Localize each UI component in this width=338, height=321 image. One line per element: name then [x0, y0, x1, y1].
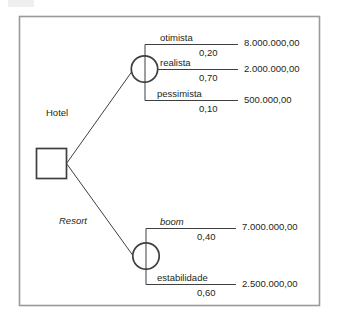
decision-tree-figure: Hotel Resort otimista 0,20 8.000.000,00 … [0, 0, 338, 321]
branch-line-resort [67, 164, 135, 258]
branch-label-otimista: otimista [160, 33, 193, 43]
branch-line-hotel [67, 70, 134, 164]
branch-label-realista: realista [160, 58, 191, 68]
branch-payoff-otimista: 8.000.000,00 [244, 38, 299, 48]
branch-label-pessimista: pessimista [157, 89, 202, 99]
branch-payoff-estabilidade: 2.500.000,00 [242, 279, 297, 289]
branch-label-boom: boom [160, 217, 184, 227]
branch-payoff-boom: 7.000.000,00 [242, 222, 297, 232]
alternative-label-resort: Resort [59, 216, 87, 226]
alternative-label-hotel: Hotel [46, 108, 68, 118]
branch-payoff-pessimista: 500.000,00 [244, 95, 292, 105]
branch-label-estabilidade: estabilidade [157, 273, 208, 283]
branch-probability-pessimista: 0,10 [199, 104, 218, 114]
branch-probability-boom: 0,40 [197, 232, 216, 242]
branch-probability-otimista: 0,20 [199, 48, 218, 58]
branch-probability-realista: 0,70 [199, 73, 218, 83]
branch-probability-estabilidade: 0,60 [197, 288, 216, 298]
decision-square-node[interactable] [37, 149, 67, 179]
branch-payoff-realista: 2.000.000,00 [244, 64, 299, 74]
